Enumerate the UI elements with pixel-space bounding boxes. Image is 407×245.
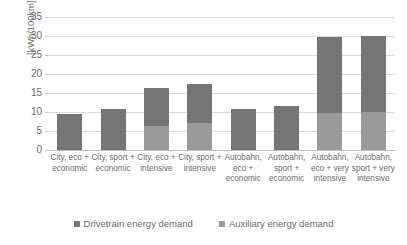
bar-7[interactable] [317, 37, 342, 150]
x-tick-label-1: City, eco + economic [46, 153, 93, 174]
y-tick-label-0: 0 [16, 145, 42, 155]
bar-2[interactable] [101, 109, 126, 150]
bar-segment-auxiliary[interactable] [317, 113, 342, 150]
bar-3[interactable] [144, 88, 169, 150]
x-tick-label-6: Autobahn, sport + economic [263, 153, 310, 185]
gridline-0 [48, 150, 395, 151]
bar-segment-drivetrain[interactable] [57, 114, 82, 150]
y-tick-label-5: 5 [16, 126, 42, 136]
bar-segment-drivetrain[interactable] [317, 37, 342, 113]
x-tick-label-4: City, sport + intensive [176, 153, 223, 174]
x-tick-label-8: Autobahn, sport + very intensive [350, 153, 397, 185]
bar-segment-auxiliary[interactable] [187, 123, 212, 150]
bar-1[interactable] [57, 114, 82, 150]
y-tick-label-20: 20 [16, 69, 42, 79]
legend-item-2[interactable]: Auxiliary energy demand [219, 219, 334, 229]
bar-segment-drivetrain[interactable] [274, 106, 299, 150]
legend-label: Auxiliary energy demand [229, 219, 334, 229]
x-tick-label-5: Autobahn, eco + economic [220, 153, 267, 185]
chart-legend: Drivetrain energy demandAuxiliary energy… [0, 219, 407, 229]
bar-segment-auxiliary[interactable] [144, 126, 169, 150]
bar-segment-drivetrain[interactable] [144, 88, 169, 126]
legend-swatch-icon [219, 221, 225, 227]
x-tick-label-3: City, eco + intensive [133, 153, 180, 174]
x-axis-category-labels: City, eco + economicCity, sport + econom… [48, 153, 395, 213]
legend-item-1[interactable]: Drivetrain energy demand [74, 219, 193, 229]
bar-6[interactable] [274, 106, 299, 150]
bar-5[interactable] [231, 109, 256, 150]
plot-area: [kWh/100km] [48, 17, 395, 150]
x-tick-label-7: Autobahn, eco + very intensive [306, 153, 353, 185]
bar-4[interactable] [187, 84, 212, 151]
bar-8[interactable] [361, 36, 386, 150]
bar-segment-drivetrain[interactable] [361, 36, 386, 112]
legend-swatch-icon [74, 221, 80, 227]
bar-segment-drivetrain[interactable] [231, 109, 256, 150]
bar-series-container [48, 17, 395, 150]
y-tick-label-10: 10 [16, 107, 42, 117]
legend-label: Drivetrain energy demand [84, 219, 193, 229]
y-tick-label-15: 15 [16, 88, 42, 98]
bar-chart: [kWh/100km] 35302520151050 City, eco + e… [0, 0, 407, 245]
x-tick-label-2: City, sport + economic [89, 153, 136, 174]
bar-segment-drivetrain[interactable] [101, 109, 126, 150]
bar-segment-drivetrain[interactable] [187, 84, 212, 124]
y-axis-title: [kWh/100km] [25, 1, 36, 55]
bar-segment-auxiliary[interactable] [361, 112, 386, 150]
